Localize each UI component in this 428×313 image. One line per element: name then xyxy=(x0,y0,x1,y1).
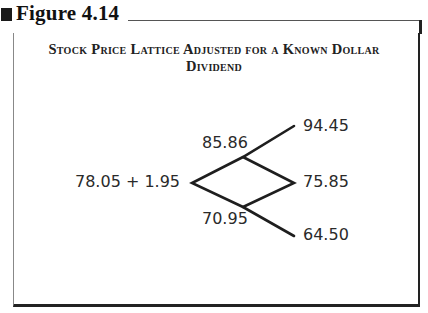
node-root: 78.05 + 1.95 xyxy=(75,172,180,191)
node-down: 70.95 xyxy=(202,209,248,228)
node-up: 85.86 xyxy=(202,133,248,152)
node-up-up: 94.45 xyxy=(303,116,349,135)
node-up-down: 75.85 xyxy=(303,172,349,191)
inner-branches xyxy=(243,157,294,207)
binomial-lattice-lines xyxy=(0,0,428,313)
node-down-down: 64.50 xyxy=(303,225,349,244)
